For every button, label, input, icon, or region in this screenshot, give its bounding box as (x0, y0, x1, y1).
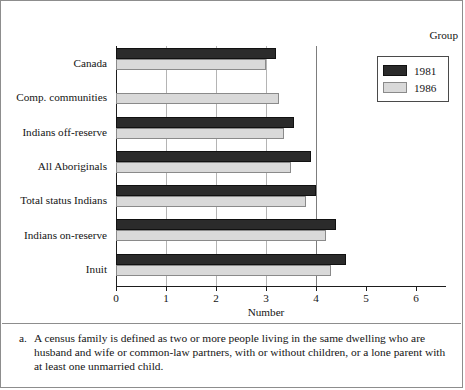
legend-swatch-1981 (383, 65, 407, 76)
x-tick-label-0: 0 (104, 292, 128, 305)
legend-item-1981: 1981 (383, 62, 443, 79)
chart-panel: Group CanadaComp. communitiesIndians off… (1, 1, 464, 323)
legend-label-1981: 1981 (414, 65, 436, 77)
x-tick-5 (366, 286, 367, 291)
bar-series-group (116, 46, 416, 286)
bar-1986-total-status-indians (116, 196, 306, 207)
bar-1981-canada (116, 48, 276, 59)
bar-1986-inuit (116, 265, 331, 276)
x-tick-label-3: 3 (254, 292, 278, 305)
x-axis-title: Number (116, 306, 416, 318)
bar-1981-total-status-indians (116, 185, 316, 196)
footnote: a. A census family is defined as two or … (1, 324, 464, 374)
category-label-all-aboriginals: All Aboriginals (1, 160, 107, 172)
category-label-indians-off-reserve: Indians off-reserve (1, 126, 107, 138)
bar-row (116, 254, 416, 284)
category-label-total-status-indians: Total status Indians (1, 194, 107, 206)
bar-1981-inuit (116, 254, 346, 265)
plot-area (116, 46, 416, 286)
category-label-comp-communities: Comp. communities (1, 91, 107, 103)
x-tick-3 (266, 286, 267, 291)
x-tick-0 (116, 286, 117, 291)
bar-1986-indians-on-reserve (116, 230, 326, 241)
bar-row (116, 185, 416, 215)
footnote-text: A census family is defined as two or mor… (34, 331, 448, 374)
x-tick-label-2: 2 (204, 292, 228, 305)
x-tick-label-1: 1 (154, 292, 178, 305)
x-tick-label-5: 5 (354, 292, 378, 305)
bar-1981-indians-off-reserve (116, 117, 294, 128)
bar-row (116, 151, 416, 181)
x-tick-label-4: 4 (304, 292, 328, 305)
figure-container: Group CanadaComp. communitiesIndians off… (0, 0, 463, 388)
bar-1986-indians-off-reserve (116, 128, 284, 139)
category-label-indians-on-reserve: Indians on-reserve (1, 229, 107, 241)
bar-row (116, 117, 416, 147)
x-tick-2 (216, 286, 217, 291)
legend: 1981 1986 (377, 56, 449, 102)
legend-label-1986: 1986 (414, 82, 436, 94)
bar-1981-all-aboriginals (116, 151, 311, 162)
x-tick-1 (166, 286, 167, 291)
category-label-inuit: Inuit (1, 263, 107, 275)
bar-row (116, 48, 416, 78)
x-tick-4 (316, 286, 317, 291)
legend-swatch-1986 (383, 82, 407, 93)
bar-1981-indians-on-reserve (116, 219, 336, 230)
bar-1986-all-aboriginals (116, 162, 291, 173)
y-axis-title: Group (352, 29, 458, 41)
footnote-marker: a. (19, 331, 34, 345)
x-tick-6 (416, 286, 417, 291)
legend-item-1986: 1986 (383, 79, 443, 96)
category-label-canada: Canada (1, 57, 107, 69)
bar-row (116, 219, 416, 249)
category-label-column: CanadaComp. communitiesIndians off-reser… (1, 25, 113, 283)
bar-1986-comp-communities (116, 93, 279, 104)
x-tick-label-6: 6 (404, 292, 428, 305)
bar-1986-canada (116, 59, 266, 70)
bar-row (116, 82, 416, 112)
